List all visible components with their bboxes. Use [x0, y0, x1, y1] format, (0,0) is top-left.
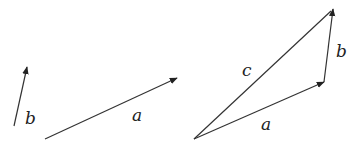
- label-c-right: c: [242, 60, 252, 80]
- label-b-right: b: [336, 41, 347, 61]
- left-panel: b a: [14, 67, 177, 139]
- label-a-right: a: [261, 114, 271, 134]
- vector-b-right: [324, 9, 333, 82]
- diagram-svg: b a c b a: [0, 0, 353, 158]
- vector-a-left: [45, 78, 177, 139]
- vector-addition-diagram: b a c b a: [0, 0, 353, 158]
- label-b-left: b: [25, 108, 36, 128]
- label-a-left: a: [132, 105, 142, 125]
- vector-a-right: [194, 82, 324, 139]
- right-panel: c b a: [194, 9, 347, 139]
